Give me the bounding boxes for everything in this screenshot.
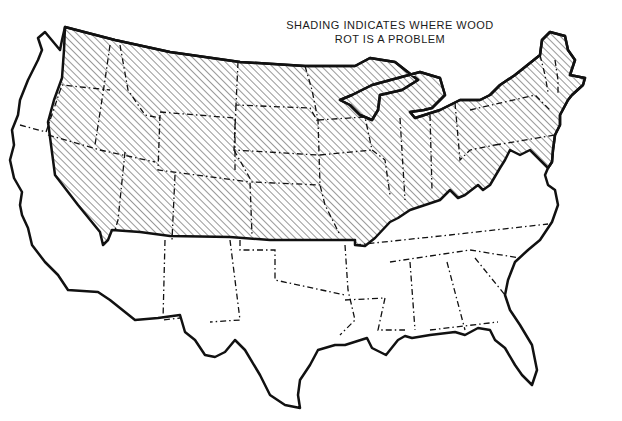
shaded-region [48, 27, 585, 246]
us-map [0, 0, 622, 421]
